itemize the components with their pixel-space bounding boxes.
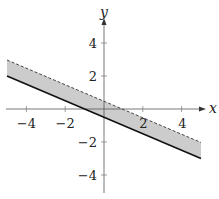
x-axis-arrow-icon bbox=[199, 107, 206, 112]
x-tick-label: 4 bbox=[178, 116, 186, 131]
x-tick-label: −4 bbox=[17, 116, 36, 131]
y-tick-label: 2 bbox=[89, 69, 97, 84]
y-tick-label: 4 bbox=[89, 36, 97, 51]
y-tick-label: −4 bbox=[78, 168, 97, 183]
x-axis-label: x bbox=[209, 100, 217, 116]
x-tick-label: 2 bbox=[139, 116, 147, 131]
y-axis-label: y bbox=[99, 4, 109, 20]
chart: −4 −2 2 4 4 2 −2 −4 x y bbox=[0, 0, 219, 199]
x-tick-label: −2 bbox=[56, 116, 75, 131]
y-tick-label: −2 bbox=[78, 135, 97, 150]
